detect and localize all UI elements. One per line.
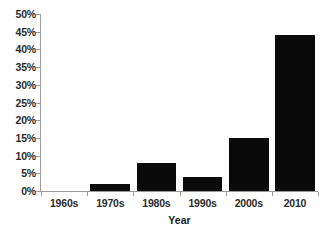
x-axis-line — [40, 191, 318, 192]
bar — [229, 138, 269, 191]
y-axis-tick-label: 15% — [0, 133, 36, 144]
y-axis-tick-label: 40% — [0, 44, 36, 55]
bar — [183, 177, 223, 191]
x-axis-tick — [226, 192, 227, 196]
y-axis-tick-label: 0% — [0, 186, 36, 197]
x-axis-category-label: 1970s — [87, 197, 133, 210]
y-axis-tick-label: 20% — [0, 115, 36, 126]
x-axis-labels: 1960s1970s1980s1990s2000s2010 — [41, 197, 318, 213]
x-axis-category-label: 1980s — [133, 197, 179, 210]
y-axis-tick-label: 50% — [0, 9, 36, 20]
plot-area — [41, 14, 318, 191]
x-axis-tick — [180, 192, 181, 196]
x-axis-title: Year — [41, 214, 318, 226]
y-axis-tick-label: 35% — [0, 62, 36, 73]
bar — [275, 35, 315, 191]
x-axis-tick — [133, 192, 134, 196]
x-axis-tick — [87, 192, 88, 196]
x-axis-category-label: 2010 — [272, 197, 318, 210]
y-axis-labels: 50%45%40%35%30%25%20%15%10%5%0% — [0, 8, 36, 192]
y-axis-tick-label: 10% — [0, 151, 36, 162]
x-axis-category-label: 1960s — [41, 197, 87, 210]
x-axis-tick — [272, 192, 273, 196]
bar-chart: 50%45%40%35%30%25%20%15%10%5%0% 1960s197… — [0, 0, 326, 241]
y-axis-tick-label: 45% — [0, 27, 36, 38]
y-axis-tick-label: 25% — [0, 98, 36, 109]
bar — [137, 163, 177, 191]
y-axis-tick-label: 30% — [0, 80, 36, 91]
x-axis-tick — [41, 192, 42, 196]
x-axis-tick — [318, 192, 319, 196]
x-axis-category-label: 2000s — [226, 197, 272, 210]
x-axis-category-label: 1990s — [180, 197, 226, 210]
bar — [90, 184, 130, 191]
y-axis-tick-label: 5% — [0, 168, 36, 179]
